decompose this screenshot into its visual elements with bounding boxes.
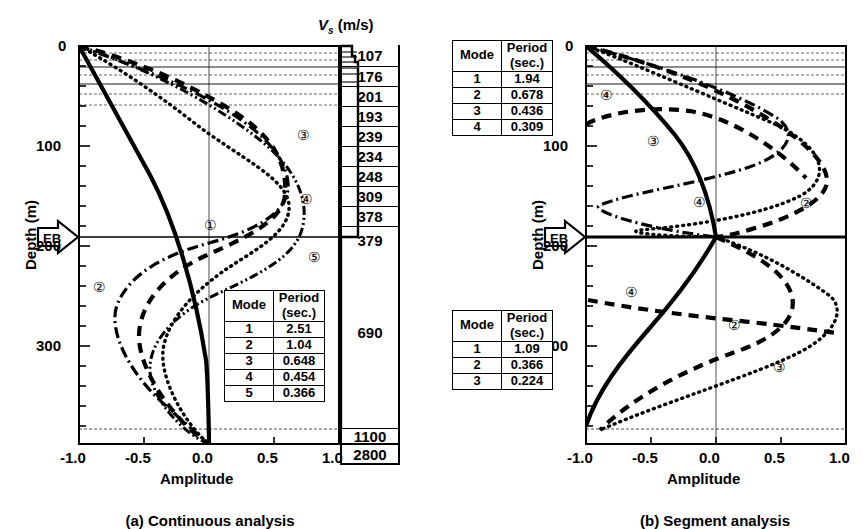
mode-tag-4-lower-b: ④ bbox=[625, 285, 638, 299]
y-ticks-a bbox=[79, 46, 90, 426]
header-period-line1: Period bbox=[279, 290, 319, 305]
x-axis-title-b: Amplitude bbox=[667, 470, 740, 487]
cell-period: 0.436 bbox=[502, 103, 553, 119]
x-tick-0-b: 0.0 bbox=[699, 450, 720, 465]
x-tick-neg05-b: -0.5 bbox=[632, 450, 658, 465]
mode-tag-2-a: ② bbox=[93, 280, 106, 294]
mode-tag-2-lower-b: ② bbox=[728, 318, 741, 332]
header-period: Period (sec.) bbox=[274, 291, 325, 322]
table-row: 11.94 bbox=[453, 71, 553, 87]
x-tick-05-a: 0.5 bbox=[257, 450, 278, 465]
mode-tag-1-a: ① bbox=[204, 218, 217, 232]
y-tick-100-a: 100 bbox=[36, 138, 61, 153]
curve-upper-mode-2 bbox=[586, 46, 827, 237]
table-row: 30.648 bbox=[225, 353, 325, 369]
cell-mode: 3 bbox=[453, 373, 502, 389]
cell-mode: 1 bbox=[225, 321, 274, 337]
period-table-b-upper: Mode Period (sec.) 11.94 20.678 30.436 4… bbox=[452, 40, 553, 136]
table-row: 40.309 bbox=[453, 119, 553, 135]
table-row: 20.678 bbox=[453, 87, 553, 103]
cell-period: 0.366 bbox=[274, 385, 325, 401]
cell-mode: 3 bbox=[225, 353, 274, 369]
lower-segment-curves-b bbox=[586, 237, 837, 430]
y-tick-300-a: 300 bbox=[36, 338, 61, 353]
table-row: 30.224 bbox=[453, 373, 553, 389]
header-period-line2: (sec.) bbox=[510, 55, 544, 70]
table-row: 50.366 bbox=[225, 385, 325, 401]
caption-b: (b) Segment analysis bbox=[580, 512, 850, 529]
cell-period: 0.224 bbox=[502, 373, 553, 389]
cell-period: 0.454 bbox=[274, 369, 325, 385]
vs-cell-0: 107 bbox=[342, 45, 398, 67]
header-period-line2: (sec.) bbox=[282, 305, 316, 320]
vs-cell-2: 201 bbox=[342, 87, 398, 107]
vs-column-a: 107 176 201 193 239 234 248 309 378 379 … bbox=[340, 45, 400, 445]
x-tick-neg1-b: -1.0 bbox=[567, 450, 593, 465]
header-mode: Mode bbox=[225, 291, 274, 322]
mode-tag-5-a: ⑤ bbox=[308, 250, 321, 264]
table-row: 21.04 bbox=[225, 337, 325, 353]
cell-mode: 2 bbox=[225, 337, 274, 353]
table-header-row: Mode Period (sec.) bbox=[453, 311, 553, 342]
y-tick-200-a: 200 bbox=[36, 238, 61, 253]
y-tick-100-b: 100 bbox=[543, 138, 568, 153]
table-header-row: Mode Period (sec.) bbox=[453, 41, 553, 72]
x-tick-05-b: 0.5 bbox=[764, 450, 785, 465]
cell-period: 0.648 bbox=[274, 353, 325, 369]
curve-lower-mode-1 bbox=[586, 237, 716, 426]
header-mode: Mode bbox=[453, 311, 502, 342]
x-tick-neg05-a: -0.5 bbox=[125, 450, 151, 465]
vs-cell-4: 239 bbox=[342, 127, 398, 147]
vs-cell-11: 1100 bbox=[342, 429, 398, 445]
cell-mode: 5 bbox=[225, 385, 274, 401]
panel-segment-analysis: EB 0 100 200 300 -1.0 -0.5 0.0 0.5 1.0 A… bbox=[440, 0, 868, 528]
header-period-line2: (sec.) bbox=[510, 325, 544, 340]
vs-cell-5: 234 bbox=[342, 147, 398, 167]
cell-period: 2.51 bbox=[274, 321, 325, 337]
table-header-row: Mode Period (sec.) bbox=[225, 291, 325, 322]
mode-tag-4-mid-b: ④ bbox=[693, 195, 706, 209]
cell-mode: 1 bbox=[453, 71, 502, 87]
header-period-line1: Period bbox=[507, 40, 547, 55]
curve-lower-mode-3b bbox=[588, 300, 836, 333]
table-row: 11.09 bbox=[453, 341, 553, 357]
cell-mode: 2 bbox=[453, 357, 502, 373]
caption-a: (a) Continuous analysis bbox=[80, 512, 340, 529]
cell-period: 1.09 bbox=[502, 341, 553, 357]
cell-mode: 3 bbox=[453, 103, 502, 119]
cell-period: 0.678 bbox=[502, 87, 553, 103]
vs-cell-7: 309 bbox=[342, 187, 398, 207]
table-row: 12.51 bbox=[225, 321, 325, 337]
table-row: 40.454 bbox=[225, 369, 325, 385]
x-tick-neg1-a: -1.0 bbox=[60, 450, 86, 465]
cell-period: 1.04 bbox=[274, 337, 325, 353]
upper-segment-curves-b bbox=[586, 46, 827, 237]
table-row: 20.366 bbox=[453, 357, 553, 373]
vs-cell-8: 378 bbox=[342, 207, 398, 227]
x-tick-0-a: 0.0 bbox=[192, 450, 213, 465]
vs-cell-10: 690 bbox=[342, 237, 398, 429]
mode-tag-4-upper-b: ④ bbox=[600, 88, 613, 102]
y-tick-200-b: 200 bbox=[543, 238, 568, 253]
cell-mode: 4 bbox=[225, 369, 274, 385]
cell-period: 0.366 bbox=[502, 357, 553, 373]
mode-tag-2-upper-b: ② bbox=[800, 196, 813, 210]
vs-cell-6: 248 bbox=[342, 167, 398, 187]
table-row: 30.436 bbox=[453, 103, 553, 119]
y-tick-0-a: 0 bbox=[58, 38, 66, 53]
panel-continuous-analysis: Vs (m/s) bbox=[0, 0, 440, 528]
mode-tag-4-a: ④ bbox=[300, 192, 313, 206]
cell-mode: 4 bbox=[453, 119, 502, 135]
x-tick-1-b: 1.0 bbox=[829, 450, 850, 465]
y-tick-0-b: 0 bbox=[565, 38, 573, 53]
vs-cell-12: 2800 bbox=[340, 445, 400, 465]
y-axis-title-b: Depth (m) bbox=[529, 200, 546, 270]
cell-mode: 1 bbox=[453, 341, 502, 357]
mode-tag-3-upper-b: ③ bbox=[647, 134, 660, 148]
period-table-a: Mode Period (sec.) 12.51 21.04 30.648 40… bbox=[224, 290, 325, 402]
header-mode: Mode bbox=[453, 41, 502, 72]
cell-period: 0.309 bbox=[502, 119, 553, 135]
mode-tag-3-a: ③ bbox=[297, 128, 310, 142]
mode-tag-3-lower-b: ③ bbox=[773, 360, 786, 374]
header-period-line1: Period bbox=[507, 310, 547, 325]
